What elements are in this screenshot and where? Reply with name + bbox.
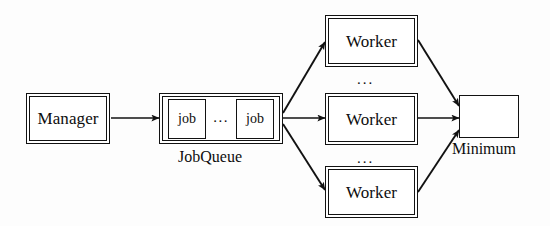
jobqueue-ellipsis: ... xyxy=(213,109,229,129)
manager-label: Manager xyxy=(37,110,98,127)
jobqueue-caption: JobQueue xyxy=(178,148,242,166)
job-cell-label: job xyxy=(246,112,264,126)
edge-worker-top-to-minimum xyxy=(418,40,459,106)
worker-ellipsis-upper: ... xyxy=(357,71,374,88)
edge-jobqueue-to-worker-bottom xyxy=(283,124,325,190)
job-cell[interactable]: job xyxy=(236,99,274,139)
worker-node-middle[interactable]: Worker xyxy=(325,93,418,145)
edge-jobqueue-to-worker-top xyxy=(283,42,325,113)
worker-top-label: Worker xyxy=(346,33,397,50)
minimum-caption: Minimum xyxy=(452,140,516,158)
manager-inner-rule: Manager xyxy=(29,96,107,141)
job-cell[interactable]: job xyxy=(168,99,206,139)
worker-bottom-inner-rule: Worker xyxy=(328,169,415,215)
worker-node-bottom[interactable]: Worker xyxy=(325,166,418,218)
diagram-canvas: Manager job ... job JobQueue Worker ... … xyxy=(0,0,550,226)
jobqueue-node[interactable]: job ... job xyxy=(159,93,283,144)
worker-bottom-label: Worker xyxy=(346,184,397,201)
jobqueue-inner-rule: job ... job xyxy=(162,96,280,141)
worker-middle-inner-rule: Worker xyxy=(328,96,415,142)
worker-node-top[interactable]: Worker xyxy=(325,15,418,67)
job-cell-label: job xyxy=(178,112,196,126)
minimum-node[interactable] xyxy=(459,95,519,138)
manager-node[interactable]: Manager xyxy=(26,93,110,144)
worker-ellipsis-lower: ... xyxy=(357,150,374,167)
worker-middle-label: Worker xyxy=(346,111,397,128)
worker-top-inner-rule: Worker xyxy=(328,18,415,64)
